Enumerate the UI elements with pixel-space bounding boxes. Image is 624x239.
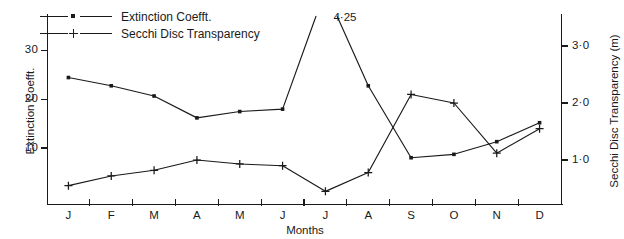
x-axis-tick bbox=[475, 199, 476, 206]
data-point-marker bbox=[152, 94, 156, 98]
peak-value-annotation: 4·25 bbox=[333, 11, 356, 23]
x-axis-tick-label: J bbox=[273, 209, 293, 221]
x-axis-tick bbox=[132, 199, 133, 206]
data-point-marker bbox=[452, 153, 456, 157]
data-point-marker bbox=[236, 160, 244, 168]
data-point-marker bbox=[150, 166, 158, 174]
x-axis-tick bbox=[218, 199, 219, 206]
y-axis-right-title: Secchi Disc Transparency (m) bbox=[608, 16, 620, 206]
data-point-marker bbox=[238, 110, 242, 114]
x-axis-tick bbox=[89, 199, 90, 206]
x-axis-tick bbox=[175, 199, 176, 206]
x-axis-tick-label: F bbox=[101, 209, 121, 221]
data-point-marker bbox=[364, 169, 372, 177]
x-axis-tick bbox=[346, 199, 347, 206]
y-axis-right-line bbox=[561, 14, 562, 205]
legend-item-extinction-coefft: Extinction Coefft. bbox=[40, 8, 260, 25]
x-axis-tick-label: S bbox=[401, 209, 421, 221]
x-axis-tick-label: A bbox=[358, 209, 378, 221]
x-axis-tick-label: J bbox=[315, 209, 335, 221]
legend-sample-line-dot bbox=[40, 11, 112, 23]
data-point-marker bbox=[64, 182, 72, 190]
data-point-marker bbox=[67, 76, 71, 80]
legend-label: Secchi Disc Transparency bbox=[121, 27, 260, 41]
x-axis-tick-label: O bbox=[444, 209, 464, 221]
legend-item-secchi-disc-transparency: Secchi Disc Transparency bbox=[40, 25, 260, 42]
y-axis-right-tick bbox=[562, 102, 568, 103]
legend-sample-line-plus bbox=[40, 28, 112, 40]
data-point-marker bbox=[281, 107, 285, 111]
data-point-marker bbox=[321, 187, 329, 195]
data-point-marker bbox=[493, 149, 501, 157]
data-point-marker bbox=[495, 140, 499, 144]
x-axis-tick bbox=[303, 199, 304, 206]
data-point-marker bbox=[109, 84, 113, 88]
x-axis-tick-label: M bbox=[144, 209, 164, 221]
y-axis-left-line bbox=[47, 14, 48, 205]
y-axis-right-tick bbox=[562, 45, 568, 46]
x-axis-tick bbox=[389, 199, 390, 206]
y-axis-left-tick bbox=[41, 99, 47, 100]
y-axis-left-tick bbox=[41, 147, 47, 148]
data-point-marker bbox=[538, 121, 542, 125]
data-point-marker bbox=[107, 172, 115, 180]
x-axis-tick-label: A bbox=[187, 209, 207, 221]
y-axis-right-tick-label: 3·0 bbox=[572, 39, 606, 51]
x-axis-tick bbox=[518, 199, 519, 206]
legend-label: Extinction Coefft. bbox=[121, 10, 212, 24]
x-axis-tick-label: J bbox=[58, 209, 78, 221]
plus-marker-icon bbox=[69, 29, 78, 38]
x-axis-tick-label: N bbox=[487, 209, 507, 221]
dot-marker-icon bbox=[71, 14, 75, 18]
x-axis-tick bbox=[432, 199, 433, 206]
data-point-marker bbox=[195, 116, 199, 120]
y-axis-right-tick bbox=[562, 159, 568, 160]
x-axis-title: Months bbox=[47, 224, 563, 236]
x-axis-tick-label: M bbox=[230, 209, 250, 221]
y-axis-left-title: Extinction Coefft. bbox=[24, 51, 36, 171]
x-axis-tick-label: D bbox=[530, 209, 550, 221]
series-line bbox=[68, 94, 539, 191]
chart-legend: Extinction Coefft. Secchi Disc Transpare… bbox=[40, 8, 260, 42]
data-point-marker bbox=[409, 156, 413, 160]
data-point-marker bbox=[366, 84, 370, 88]
data-point-marker bbox=[536, 125, 544, 133]
x-axis-line bbox=[47, 204, 563, 205]
y-axis-right-tick-label: 1·0 bbox=[572, 153, 606, 165]
data-point-marker bbox=[193, 156, 201, 164]
y-axis-left-tick bbox=[41, 50, 47, 51]
chart-figure: Extinction Coefft. Secchi Disc Transpare… bbox=[0, 0, 624, 239]
data-point-marker bbox=[407, 90, 415, 98]
data-point-marker bbox=[279, 162, 287, 170]
y-axis-right-tick-label: 2·0 bbox=[572, 96, 606, 108]
data-point-marker bbox=[450, 99, 458, 107]
x-axis-tick bbox=[261, 199, 262, 206]
